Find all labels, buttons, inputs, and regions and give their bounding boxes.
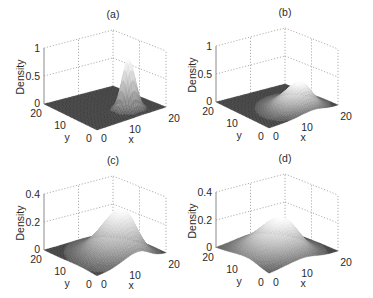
y-tick: 10 xyxy=(226,117,238,129)
x-axis-label: x xyxy=(300,131,306,143)
subplot-title: (a) xyxy=(107,8,120,20)
z-tick: 0.5 xyxy=(25,70,40,82)
z-tick: 0.2 xyxy=(197,214,212,226)
x-tick: 20 xyxy=(168,112,180,124)
subplot-a: (a)10.50Density20100y01020x xyxy=(14,8,180,145)
x-tick: 20 xyxy=(340,110,352,122)
y-tick: 0 xyxy=(258,130,264,142)
subplot-title: (b) xyxy=(279,6,292,18)
x-tick: 20 xyxy=(168,258,180,270)
x-tick: 0 xyxy=(101,132,107,144)
z-tick: 0.4 xyxy=(197,186,212,198)
y-tick: 20 xyxy=(202,251,214,263)
z-axis-label: Density xyxy=(14,59,26,95)
y-tick: 10 xyxy=(54,119,66,131)
z-axis-label: Density xyxy=(186,57,198,93)
subplot-d: (d)0.40.20Density20100y01020x xyxy=(186,152,352,289)
x-tick: 20 xyxy=(340,256,352,268)
z-tick: 1 xyxy=(34,42,40,54)
z-tick: 1 xyxy=(206,40,212,52)
z-axis-label: Density xyxy=(186,203,198,239)
y-tick: 20 xyxy=(202,105,214,117)
y-axis-label: y xyxy=(64,277,70,289)
y-tick: 0 xyxy=(86,278,92,290)
subplot-c: (c)0.40.20Density20100y01020x xyxy=(14,154,180,291)
y-tick: 10 xyxy=(226,263,238,275)
z-axis-label: Density xyxy=(14,205,26,241)
y-axis-label: y xyxy=(236,129,242,141)
subplot-b: (b)10.50Density20100y01020x xyxy=(186,6,352,143)
x-axis-label: x xyxy=(300,277,306,289)
y-tick: 20 xyxy=(30,253,42,265)
y-tick: 20 xyxy=(30,107,42,119)
y-tick: 10 xyxy=(54,265,66,277)
x-tick: 0 xyxy=(101,278,107,290)
y-tick: 0 xyxy=(86,132,92,144)
y-axis-label: y xyxy=(64,131,70,143)
x-axis-label: x xyxy=(128,279,134,291)
y-axis-label: y xyxy=(236,275,242,287)
z-tick: 0.2 xyxy=(25,216,40,228)
subplot-title: (d) xyxy=(279,152,292,164)
x-axis-label: x xyxy=(128,133,134,145)
z-tick: 0.4 xyxy=(25,188,40,200)
subplot-title: (c) xyxy=(107,154,119,166)
y-tick: 0 xyxy=(258,276,264,288)
figure-canvas: (a)10.50Density20100y01020x(b)10.50Densi… xyxy=(0,0,373,298)
x-tick: 0 xyxy=(273,130,279,142)
z-tick: 0.5 xyxy=(197,68,212,80)
x-tick: 0 xyxy=(273,276,279,288)
